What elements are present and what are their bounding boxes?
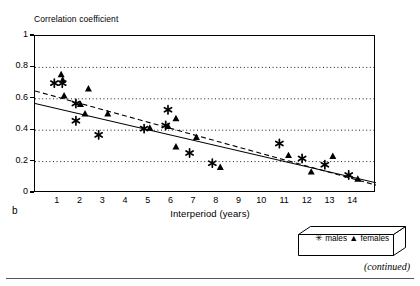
x-tick-label: 6	[160, 195, 180, 205]
marker-triangle	[217, 163, 224, 169]
x-tick-label: 4	[115, 195, 135, 205]
marker-triangle	[285, 152, 292, 158]
y-tick-mark	[30, 97, 34, 98]
x-tick-label: 8	[206, 195, 226, 205]
marker-asterisk	[164, 106, 171, 114]
trend-lines	[35, 91, 376, 185]
y-tick-mark	[30, 160, 34, 161]
legend-males-icon: ✳	[315, 233, 323, 243]
marker-triangle	[61, 92, 68, 98]
x-tick-label: 10	[251, 195, 271, 205]
marker-asterisk	[209, 159, 216, 167]
y-tick-label: 1	[2, 29, 28, 39]
marker-asterisk	[345, 171, 352, 179]
x-tick-label: 12	[297, 195, 317, 205]
marker-asterisk	[95, 131, 102, 139]
legend-males-label: males	[325, 234, 347, 243]
y-tick-mark	[30, 66, 34, 67]
y-axis-title: Correlation coefficient	[34, 14, 118, 24]
x-tick-label: 7	[183, 195, 203, 205]
marker-triangle	[85, 85, 92, 91]
figure-panel-b: Correlation coefficient 00.20.40.60.81 1…	[0, 0, 420, 286]
panel-letter: b	[12, 205, 18, 216]
marker-triangle	[172, 115, 179, 121]
x-tick-label: 11	[274, 195, 294, 205]
x-tick-label: 3	[92, 195, 112, 205]
marker-triangle	[58, 71, 65, 77]
y-tick-label: 0.2	[2, 155, 28, 165]
legend-females-icon: ▲	[349, 233, 358, 243]
x-tick-label: 1	[47, 195, 67, 205]
footer-rule	[6, 278, 414, 279]
x-tick-label: 5	[138, 195, 158, 205]
marker-triangle	[329, 152, 336, 158]
marker-asterisk	[186, 149, 193, 157]
marker-triangle	[172, 143, 179, 149]
marker-asterisk	[299, 154, 306, 162]
y-tick-mark	[30, 129, 34, 130]
y-tick-label: 0.6	[2, 92, 28, 102]
legend-entries: ✳ males ▲ females	[306, 232, 398, 245]
x-tick-label: 13	[320, 195, 340, 205]
legend-females-label: females	[360, 234, 389, 243]
marker-asterisk	[276, 139, 283, 147]
x-tick-label: 14	[342, 195, 362, 205]
marker-triangle	[308, 168, 315, 174]
y-tick-label: 0.8	[2, 60, 28, 70]
y-tick-mark	[30, 34, 34, 35]
y-tick-label: 0	[2, 186, 28, 196]
plot-canvas	[35, 36, 376, 193]
x-tick-label: 2	[69, 195, 89, 205]
plot-area	[34, 35, 375, 192]
y-tick-mark	[30, 191, 34, 192]
marker-triangle	[82, 110, 89, 116]
y-tick-label: 0.4	[2, 123, 28, 133]
continued-note: (continued)	[364, 261, 410, 272]
marker-asterisk	[51, 79, 58, 87]
data-markers-males	[51, 79, 352, 179]
x-tick-label: 9	[229, 195, 249, 205]
marker-triangle	[104, 110, 111, 116]
x-axis-title: Interperiod (years)	[0, 208, 420, 219]
marker-asterisk	[72, 117, 79, 125]
legend-box: ✳ males ▲ females	[298, 226, 410, 260]
